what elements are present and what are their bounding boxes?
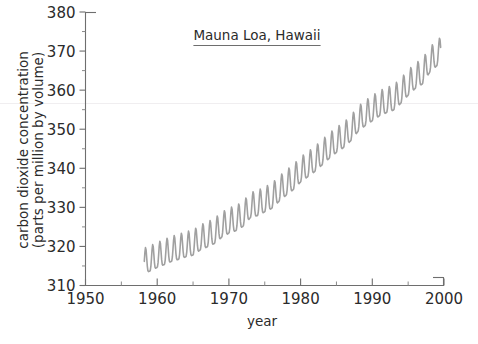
x-axis-tick-labels: 195019601970198019902000 <box>66 290 463 308</box>
y-tick-label: 340 <box>47 160 76 178</box>
y-tick-label: 330 <box>47 199 76 217</box>
chart-canvas: 310320330340350360370380 195019601970198… <box>0 0 478 344</box>
y-axis-tick-labels: 310320330340350360370380 <box>47 4 76 296</box>
x-tick-label: 1990 <box>353 290 391 308</box>
chart-title: Mauna Loa, Hawaii <box>193 27 320 43</box>
y-axis-ticks <box>80 12 86 286</box>
y-tick-label: 380 <box>47 4 76 22</box>
y-axis-title-group: carbon dioxide concentration (parts per … <box>15 51 46 249</box>
x-tick-label: 1960 <box>138 290 176 308</box>
chart-title-group: Mauna Loa, Hawaii <box>193 27 320 46</box>
co2-data-curve <box>144 38 440 271</box>
y-axis-title-line1: carbon dioxide concentration <box>15 51 31 249</box>
y-axis-title-line2: (parts per million by volume) <box>30 52 46 248</box>
x-axis-title: year <box>247 313 278 329</box>
x-tick-label: 2000 <box>425 290 463 308</box>
x-axis-ticks <box>86 279 445 286</box>
x-tick-label: 1980 <box>282 290 320 308</box>
co2-chart: 310320330340350360370380 195019601970198… <box>0 0 478 344</box>
x-tick-label: 1970 <box>210 290 248 308</box>
y-tick-label: 370 <box>47 43 76 61</box>
plot-axes <box>85 12 444 286</box>
y-tick-label: 360 <box>47 82 76 100</box>
x-tick-label: 1950 <box>66 290 104 308</box>
y-tick-label: 320 <box>47 238 76 256</box>
y-tick-label: 350 <box>47 121 76 139</box>
